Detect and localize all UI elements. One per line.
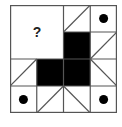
diagonal-line [10,59,37,86]
diagonal-line [90,59,117,86]
black-cell [64,59,91,86]
diagonal-line [64,86,91,113]
diagonal-line [90,32,117,59]
question-mark: ? [10,5,64,59]
black-cell [37,59,64,86]
diagonal-line [64,5,91,32]
dot-icon [99,14,108,23]
diagonal-line [37,86,64,113]
dot-icon [99,95,108,104]
dot-icon [19,95,28,104]
black-cell [64,32,91,59]
